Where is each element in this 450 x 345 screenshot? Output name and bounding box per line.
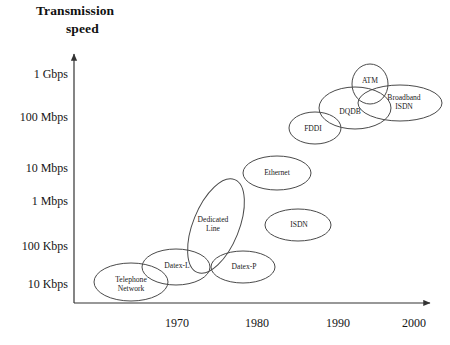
chart-title-line1: Transmission bbox=[36, 2, 114, 19]
ellipse-datex-p bbox=[211, 251, 275, 283]
y-tick-label-1mbps: 1 Mbps bbox=[2, 194, 68, 209]
ellipse-datex-l bbox=[142, 249, 210, 285]
x-tick-label-1990: 1990 bbox=[313, 316, 363, 331]
ellipse-dqdb bbox=[319, 87, 391, 129]
x-tick-label-2000: 2000 bbox=[389, 316, 439, 331]
chart-title-line2: speed bbox=[66, 20, 99, 37]
ellipse-atm bbox=[352, 64, 388, 104]
y-tick-label-100kbps: 100 Kbps bbox=[2, 239, 68, 254]
y-tick-label-10kbps: 10 Kbps bbox=[2, 277, 68, 292]
y-tick-label-10mbps: 10 Mbps bbox=[2, 161, 68, 176]
ellipse-isdn bbox=[265, 209, 331, 241]
ellipse-broadband-isdn bbox=[358, 85, 442, 121]
transmission-speed-chart: Transmission speed 1 Gbps 100 Mbps 10 Mb… bbox=[0, 0, 450, 345]
ellipse-dedicated-line bbox=[176, 171, 256, 281]
x-tick-label-1980: 1980 bbox=[232, 316, 282, 331]
ellipse-ethernet bbox=[243, 156, 311, 190]
x-tick-label-1970: 1970 bbox=[152, 316, 202, 331]
y-tick-label-1gbps: 1 Gbps bbox=[2, 67, 68, 82]
ellipse-fddi bbox=[289, 112, 341, 144]
ellipse-group bbox=[94, 64, 442, 301]
y-tick-label-100mbps: 100 Mbps bbox=[2, 110, 68, 125]
